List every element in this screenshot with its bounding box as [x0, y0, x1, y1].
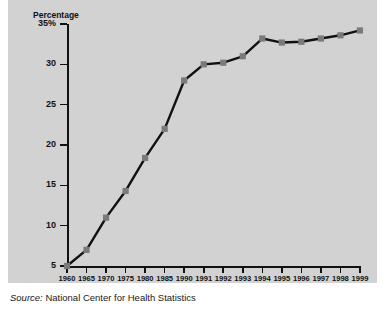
chart-panel: U.S. Children Born to Unwed Mothers Perc… — [8, 0, 377, 283]
data-point-marker — [220, 60, 226, 66]
data-point-marker — [103, 215, 109, 221]
data-point-marker — [279, 39, 285, 45]
data-point-marker — [64, 263, 70, 269]
series-polyline — [67, 30, 360, 266]
data-point-marker — [122, 188, 128, 194]
source-note: Source: National Center for Health Stati… — [10, 292, 196, 303]
data-point-marker — [162, 126, 168, 132]
data-point-marker — [337, 32, 343, 38]
data-point-marker — [83, 247, 89, 253]
data-point-marker — [240, 53, 246, 59]
data-point-marker — [201, 61, 207, 67]
data-point-marker — [357, 27, 363, 33]
data-point-marker — [259, 35, 265, 41]
data-series-line — [8, 0, 377, 283]
data-point-marker — [181, 77, 187, 83]
data-point-marker — [142, 155, 148, 161]
source-label: Source: — [10, 292, 43, 303]
data-point-marker — [298, 39, 304, 45]
data-point-marker — [318, 35, 324, 41]
source-text: National Center for Health Statistics — [45, 292, 195, 303]
chart-figure: U.S. Children Born to Unwed Mothers Perc… — [0, 0, 385, 312]
